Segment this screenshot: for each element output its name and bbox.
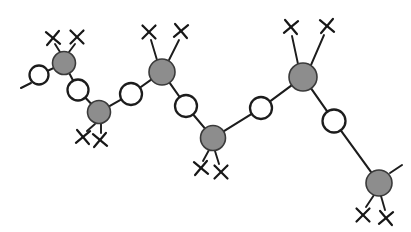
x-sub-5-bond: [151, 40, 157, 60]
x-sub-9-bond: [292, 36, 298, 64]
stub-left-open-circle: [21, 83, 31, 88]
node-layer: [30, 52, 393, 197]
bond-f5-o6: [310, 87, 328, 113]
open-circle-3: [120, 83, 142, 105]
x-sub-5: [143, 26, 156, 39]
x-sub-7-bond: [203, 150, 209, 161]
x-sub-12-bond: [381, 196, 385, 210]
chain-diagram-svg: [0, 0, 411, 232]
x-sub-11: [357, 209, 370, 222]
diagram-canvas: [0, 0, 411, 232]
open-circle-5: [250, 97, 272, 119]
x-sub-2-bond: [69, 44, 75, 52]
x-sub-12: [379, 211, 393, 225]
open-circle-2: [68, 80, 89, 101]
x-sub-10-bond: [311, 35, 324, 65]
x-sub-9: [284, 20, 298, 34]
x-sub-6-bond: [169, 40, 179, 60]
x-sub-2: [71, 31, 84, 44]
bond-o4-f4: [192, 113, 206, 129]
bond-f3-o4: [169, 81, 181, 98]
filled-node-5: [289, 63, 317, 91]
bond-f4-o5: [222, 113, 253, 132]
bond-o6-f6: [340, 129, 372, 174]
x-sub-4: [93, 133, 107, 147]
x-sub-10: [320, 19, 334, 33]
filled-node-1: [53, 52, 76, 75]
x-sub-11-bond: [366, 195, 374, 207]
x-sub-3: [76, 130, 90, 144]
x-sub-3-bond: [87, 124, 95, 131]
x-sub-6: [174, 24, 188, 38]
filled-node-3: [149, 59, 175, 85]
open-circle-1: [30, 66, 49, 85]
open-circle-4: [175, 95, 197, 117]
filled-node-4: [201, 126, 226, 151]
filled-node-6: [366, 170, 392, 196]
bond-o5-f5: [269, 84, 293, 102]
x-sub-8-bond: [215, 151, 219, 164]
x-sub-1: [46, 31, 60, 45]
x-sub-7: [194, 161, 208, 175]
open-circle-6: [323, 110, 346, 133]
x-sub-1-bond: [55, 44, 60, 52]
filled-node-2: [88, 101, 111, 124]
x-sub-8: [215, 166, 228, 179]
stub-right-filled-node: [390, 165, 402, 173]
